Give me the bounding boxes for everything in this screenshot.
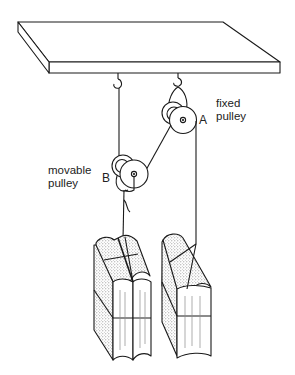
fixed-pulley-label-line1: fixed [216, 97, 240, 109]
left-hook [114, 73, 122, 88]
rope-A-to-B [146, 125, 171, 170]
fixed-pulley-label-line2: pulley [216, 110, 246, 122]
fixed-pulley-letter: A [199, 113, 207, 127]
right-hook [174, 73, 182, 86]
board-top-face [18, 22, 280, 62]
rope-B-to-left-weight [123, 190, 130, 240]
books-front-right [133, 279, 151, 360]
movable-pulley-label-line2: pulley [48, 177, 78, 189]
pulley-diagram: A fixed pulley movable pulley B [0, 0, 295, 375]
movable-pulley-label-line1: movable [48, 164, 91, 176]
board-front-edge [49, 62, 280, 73]
movable-pulley-B [112, 155, 148, 192]
ceiling-board [18, 22, 280, 73]
movable-pulley-letter: B [102, 171, 110, 185]
right-weight-books [162, 234, 211, 358]
books-front-left [113, 279, 133, 360]
books-front [177, 285, 211, 358]
left-weight-books [94, 235, 151, 360]
fixed-pulley-A [162, 87, 197, 134]
